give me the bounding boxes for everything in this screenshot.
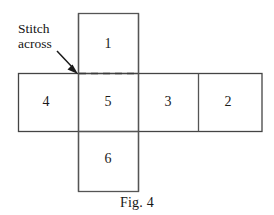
face-label-5: 5 bbox=[105, 95, 112, 109]
face-label-2: 2 bbox=[225, 95, 232, 109]
stitch-annotation-line2: across bbox=[18, 36, 52, 51]
face-label-6: 6 bbox=[105, 152, 112, 166]
stitch-annotation: Stitch across bbox=[18, 21, 52, 51]
figure-caption: Fig. 4 bbox=[0, 195, 274, 211]
face-label-1: 1 bbox=[105, 37, 112, 51]
figure-container: Stitch across 1 4 5 3 2 6 Fig. 4 bbox=[0, 0, 274, 215]
arrow-shaft bbox=[57, 51, 74, 69]
stitch-annotation-line1: Stitch bbox=[18, 21, 52, 36]
face-label-3: 3 bbox=[165, 95, 172, 109]
face-label-4: 4 bbox=[43, 95, 50, 109]
pointer-arrow bbox=[57, 51, 78, 74]
arrow-head bbox=[68, 65, 79, 75]
